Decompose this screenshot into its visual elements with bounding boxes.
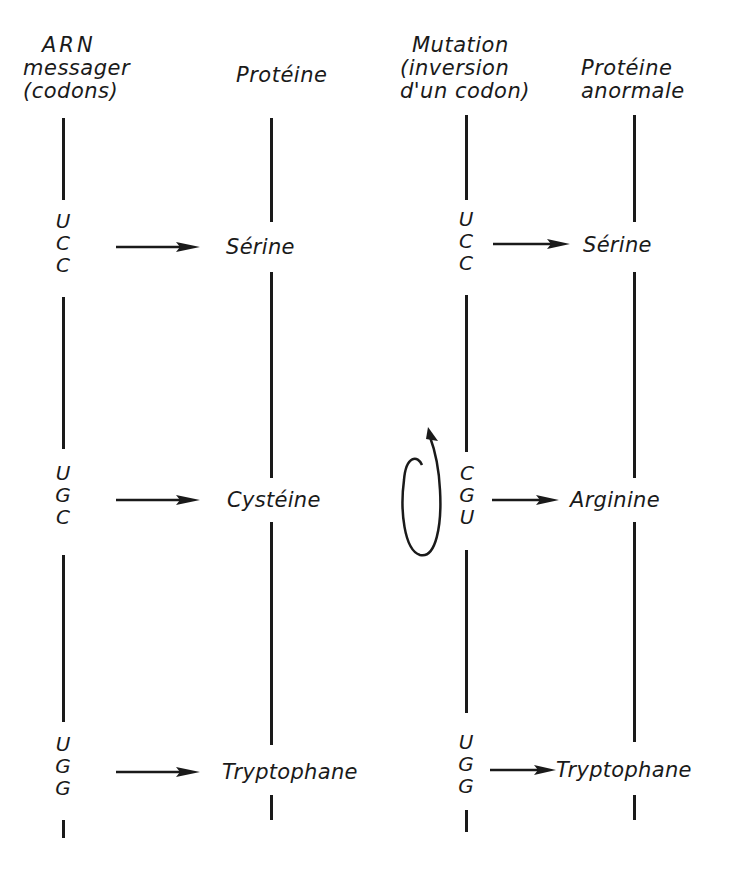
nucleotide: U bbox=[457, 506, 477, 528]
nucleotide: G bbox=[456, 753, 476, 775]
header-proteine: Protéine bbox=[236, 64, 327, 87]
abnormal-protein-chain-segment bbox=[633, 522, 636, 742]
nucleotide: C bbox=[53, 232, 73, 254]
mutant-rna-strand-segment bbox=[465, 550, 468, 713]
arrow-right-icon bbox=[490, 765, 556, 775]
header-line: messager bbox=[23, 57, 130, 80]
arrow-right-icon bbox=[492, 495, 559, 505]
nucleotide: U bbox=[53, 733, 73, 755]
arrow-right-icon bbox=[116, 242, 200, 252]
inversion-rotation-icon bbox=[400, 425, 452, 564]
nucleotide: C bbox=[456, 252, 476, 274]
nucleotide: U bbox=[53, 210, 73, 232]
abnormal-protein-chain-segment bbox=[633, 272, 636, 478]
mutant-codon-ucc: U C C bbox=[456, 208, 476, 274]
amino-acid-serine: Sérine bbox=[226, 235, 295, 259]
arrow-right-icon bbox=[116, 495, 200, 505]
amino-acid-cysteine: Cystéine bbox=[227, 488, 321, 512]
nucleotide: U bbox=[456, 208, 476, 230]
amino-acid-tryptophane-mutant: Tryptophane bbox=[556, 758, 692, 782]
header-line: (inversion bbox=[400, 57, 530, 80]
nucleotide: G bbox=[53, 755, 73, 777]
header-line: d'un codon) bbox=[400, 80, 530, 103]
abnormal-protein-chain-segment bbox=[633, 795, 636, 820]
abnormal-protein-chain-segment bbox=[633, 115, 636, 222]
header-proteine-anormale: Protéine anormale bbox=[581, 57, 685, 103]
nucleotide: C bbox=[457, 462, 477, 484]
rna-strand-segment bbox=[62, 555, 65, 722]
codon-ugc: U G C bbox=[53, 462, 73, 528]
mutant-rna-strand-segment bbox=[465, 810, 468, 832]
nucleotide: C bbox=[456, 230, 476, 252]
amino-acid-tryptophane: Tryptophane bbox=[222, 760, 358, 784]
protein-chain-segment bbox=[270, 522, 273, 745]
nucleotide: G bbox=[53, 777, 73, 799]
mutant-codon-ugg: U G G bbox=[456, 731, 476, 797]
codon-ugg: U G G bbox=[53, 733, 73, 799]
rna-strand-segment bbox=[62, 297, 65, 449]
amino-acid-arginine: Arginine bbox=[570, 488, 660, 512]
nucleotide: C bbox=[53, 254, 73, 276]
header-line: Protéine bbox=[236, 64, 327, 87]
protein-chain-segment bbox=[270, 272, 273, 478]
rna-strand-segment bbox=[62, 118, 65, 200]
nucleotide: C bbox=[53, 506, 73, 528]
mutant-codon-cgu: C G U bbox=[457, 462, 477, 528]
amino-acid-serine-mutant: Sérine bbox=[583, 233, 652, 257]
nucleotide: U bbox=[456, 731, 476, 753]
nucleotide: U bbox=[53, 462, 73, 484]
nucleotide: G bbox=[53, 484, 73, 506]
codon-ucc: U C C bbox=[53, 210, 73, 276]
mutant-rna-strand-segment bbox=[465, 115, 468, 200]
arrow-right-icon bbox=[116, 767, 200, 777]
codon-mutation-diagram: ARN messager (codons) Protéine Mutation … bbox=[0, 0, 741, 872]
header-arn-messager: ARN messager (codons) bbox=[36, 34, 130, 103]
protein-chain-segment bbox=[270, 795, 273, 820]
arrow-right-icon bbox=[493, 239, 570, 249]
rna-strand-segment bbox=[62, 820, 65, 838]
header-line: anormale bbox=[581, 80, 685, 103]
header-line: ARN bbox=[36, 34, 130, 57]
protein-chain-segment bbox=[270, 118, 273, 222]
header-line: Protéine bbox=[581, 57, 685, 80]
header-line: (codons) bbox=[23, 80, 130, 103]
mutant-rna-strand-segment bbox=[465, 295, 468, 452]
header-mutation: Mutation (inversion d'un codon) bbox=[400, 34, 530, 103]
header-line: Mutation bbox=[400, 34, 530, 57]
nucleotide: G bbox=[457, 484, 477, 506]
nucleotide: G bbox=[456, 775, 476, 797]
